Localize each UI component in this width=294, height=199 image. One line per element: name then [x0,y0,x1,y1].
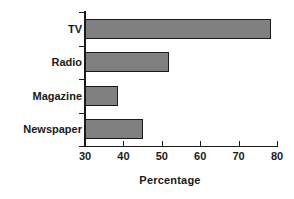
category-label-newspaper: Newspaper [4,123,82,135]
category-label-radio: Radio [4,56,82,68]
x-axis-title: Percentage [0,174,294,186]
category-label-tv: TV [4,23,82,35]
x-axis-title-text: Percentage [139,174,200,186]
x-axis-tick [200,141,201,147]
x-tick-label: 70 [227,150,251,163]
bar-magazine [85,86,118,106]
x-axis-line [85,146,278,147]
x-tick-label: 40 [111,150,135,163]
x-tick-label: 30 [73,150,97,163]
x-axis-tick [162,141,163,147]
x-axis-tick [239,141,240,147]
x-axis-tick [277,141,278,147]
bar-newspaper [85,119,143,139]
x-tick-label: 50 [150,150,174,163]
y-axis-category-labels: TVRadioMagazineNewspaper [0,0,82,160]
bar-chart: TVRadioMagazineNewspaper 304050607080 Pe… [0,0,294,199]
x-tick-label: 60 [188,150,212,163]
bar-tv [85,19,271,39]
x-axis-tick [123,141,124,147]
category-label-magazine: Magazine [4,90,82,102]
x-axis-tick [85,141,86,147]
bar-radio [85,52,169,72]
x-tick-label: 80 [265,150,289,163]
